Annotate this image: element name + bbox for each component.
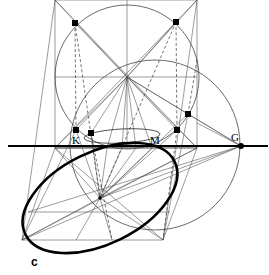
label-k: K [72,134,80,146]
outer-slanted-lines [22,0,197,240]
marker-left-inner-point [88,130,94,136]
marker-top-left-tangent-point [72,20,78,26]
marker-ellipse-center-point [98,196,102,200]
marker-left-axis-point-k [73,127,79,133]
marker-right-upper-point [185,111,191,117]
label-g: G [231,131,239,143]
geometry-figure: K M G c [0,0,269,275]
construction-drawing: K M G c [0,0,269,275]
marker-right-inner-point [174,127,180,133]
marker-top-right-tangent-point [173,19,179,25]
marker-g-axis-point [238,143,244,149]
label-m: M [150,134,160,146]
flat-auxiliary-ellipse [84,127,161,145]
figure-caption: c [31,255,38,269]
